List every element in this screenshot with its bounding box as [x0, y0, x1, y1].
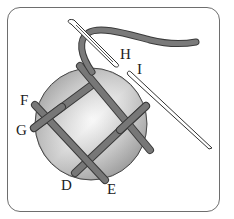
- label-g: G: [16, 122, 27, 138]
- label-i: I: [137, 61, 142, 77]
- label-h: H: [120, 46, 131, 62]
- needle-eye-end: [68, 19, 118, 67]
- stitch-diagram: F G D E H I: [0, 0, 234, 219]
- label-d: D: [61, 177, 72, 193]
- label-f: F: [20, 92, 28, 108]
- label-e: E: [107, 181, 116, 197]
